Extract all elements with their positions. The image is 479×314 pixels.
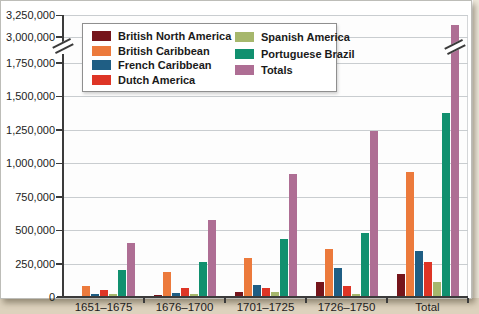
legend-swatch-icon	[92, 46, 111, 56]
legend-item-spanish-america: Spanish America	[235, 29, 335, 46]
y-tick-label: 1,500,000	[3, 90, 55, 102]
bar-french-caribbean-Total	[415, 251, 423, 297]
x-tick-label: 1701–1725	[225, 301, 306, 313]
y-tick-mark	[56, 163, 62, 165]
y-tick-mark	[56, 62, 62, 64]
legend-item-british-north-america: British North America	[92, 29, 230, 44]
bar-british-north-america-Total	[397, 274, 405, 297]
legend-item-british-caribbean: British Caribbean	[92, 44, 230, 59]
y-tick-label: 1,750,000	[3, 57, 55, 69]
legend-swatch-icon	[235, 65, 254, 75]
y-axis-line-above-break	[62, 15, 64, 42]
y-tick-label: 500,000	[3, 224, 55, 236]
bar-chart-figure: 0250,000500,000750,0001,000,0001,250,000…	[0, 0, 472, 299]
legend-box: British North AmericaBritish CaribbeanFr…	[82, 23, 337, 92]
x-axis-line	[57, 296, 468, 298]
bar-portuguese-brazil-1701–1725	[280, 239, 288, 297]
y-tick-label: 250,000	[3, 258, 55, 270]
y-tick-mark	[56, 297, 62, 299]
bar-portuguese-brazil-1651–1675	[118, 270, 126, 297]
gridline-1,000,000	[63, 163, 468, 164]
legend-label: Totals	[261, 64, 293, 76]
plot-right-border	[467, 15, 468, 297]
bar-portuguese-brazil-1676–1700	[199, 262, 207, 297]
x-tick-label: 1676–1700	[144, 301, 225, 313]
legend-label: Portuguese Brazil	[261, 48, 355, 60]
y-tick-mark	[56, 263, 62, 265]
legend-label: Dutch America	[118, 74, 195, 86]
legend-swatch-icon	[92, 75, 111, 85]
y-axis-line-below-break	[62, 54, 64, 298]
bar-french-caribbean-1726–1750	[334, 268, 342, 297]
gridline-3,250,000	[63, 15, 468, 16]
bar-totals-1676–1700	[208, 220, 216, 297]
legend-item-portuguese-brazil: Portuguese Brazil	[235, 46, 335, 63]
y-tick-label: 3,000,000	[3, 31, 55, 43]
x-tick-label: 1651–1675	[63, 301, 144, 313]
legend-swatch-icon	[235, 49, 254, 59]
y-tick-mark	[56, 96, 62, 98]
bar-dutch-america-Total	[424, 262, 432, 297]
legend-label: Spanish America	[261, 31, 350, 43]
bar-british-caribbean-1701–1725	[244, 258, 252, 297]
gridline-1,250,000	[63, 130, 468, 131]
y-tick-label: 1,250,000	[3, 124, 55, 136]
y-tick-mark	[56, 230, 62, 232]
bar-totals-1701–1725	[289, 174, 297, 297]
bar-british-north-america-1726–1750	[316, 282, 324, 297]
y-tick-mark	[56, 196, 62, 198]
bar-totals-1651–1675	[127, 243, 135, 297]
x-tick-label: Total	[387, 301, 468, 313]
y-tick-mark	[56, 36, 62, 38]
y-tick-mark	[56, 129, 62, 131]
y-tick-mark	[56, 15, 62, 17]
bar-spanish-america-Total	[433, 282, 441, 297]
legend-label: British North America	[118, 30, 231, 42]
legend-item-totals: Totals	[235, 62, 335, 79]
gridline-1,500,000	[63, 96, 468, 97]
legend-label: British Caribbean	[118, 45, 210, 57]
bar-british-caribbean-Total	[406, 172, 414, 297]
legend-swatch-icon	[235, 32, 254, 42]
legend-swatch-icon	[92, 31, 111, 41]
legend-label: French Caribbean	[118, 59, 212, 71]
y-tick-label: 3,250,000	[3, 9, 55, 21]
legend-item-french-caribbean: French Caribbean	[92, 58, 230, 73]
y-tick-label: 0	[3, 291, 55, 303]
bar-totals-Total	[451, 25, 459, 297]
bar-british-caribbean-1676–1700	[163, 272, 171, 297]
bar-totals-1726–1750	[370, 131, 378, 297]
legend-item-dutch-america: Dutch America	[92, 73, 230, 88]
legend-column-right: Spanish AmericaPortuguese BrazilTotals	[235, 29, 335, 87]
bar-portuguese-brazil-1726–1750	[361, 233, 369, 297]
legend-swatch-icon	[92, 60, 111, 70]
scanned-page-right-margin	[473, 0, 479, 314]
y-tick-label: 1,000,000	[3, 157, 55, 169]
bar-portuguese-brazil-Total	[442, 113, 450, 297]
legend-column-left: British North AmericaBritish CaribbeanFr…	[92, 29, 230, 87]
y-tick-label: 750,000	[3, 191, 55, 203]
bar-british-caribbean-1726–1750	[325, 249, 333, 297]
x-tick-label: 1726–1750	[306, 301, 387, 313]
